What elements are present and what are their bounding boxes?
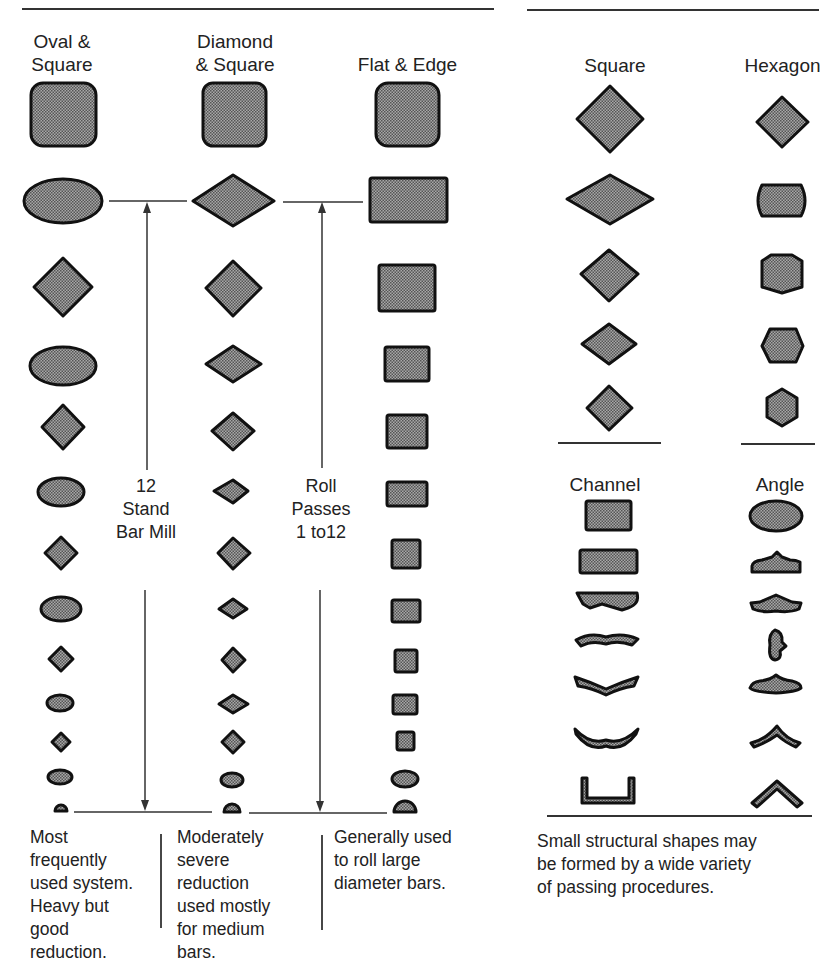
- hexagon-shape: [762, 329, 803, 362]
- oval-shape: [221, 773, 243, 787]
- description-line: good: [30, 918, 160, 941]
- description-line: severe: [177, 849, 317, 872]
- description-line: Heavy but: [30, 895, 160, 918]
- description-line: Generally used: [334, 826, 494, 849]
- oval-shape: [30, 347, 96, 385]
- oval-shape: [47, 695, 73, 711]
- rect-shape: [586, 501, 631, 530]
- oval-shape: [392, 771, 418, 787]
- angle-pass-shape: [751, 726, 800, 747]
- arrow-up-icon: [318, 202, 326, 213]
- diamond-shape: [219, 695, 248, 713]
- description-line: used system.: [30, 872, 160, 895]
- round-shape: [394, 801, 416, 812]
- oval-shape: [750, 501, 802, 531]
- channel-finish-shape: [582, 778, 634, 803]
- diamond-shape: [222, 648, 245, 672]
- oval-shape: [38, 478, 84, 506]
- description-line: for medium: [177, 918, 317, 941]
- flat-edge-sequence: [370, 83, 447, 812]
- diamond-shape: [193, 175, 274, 226]
- diamond-shape: [577, 86, 643, 152]
- diamond-shape: [34, 258, 92, 316]
- channel-pass-shape: [576, 635, 638, 646]
- description-line: be formed by a wide variety: [537, 853, 827, 876]
- angle-finish-shape: [752, 781, 802, 807]
- description-line: bars.: [177, 941, 317, 960]
- description-diamond-square: Moderately severe reduction used mostly …: [177, 826, 317, 960]
- rect-shape: [393, 695, 417, 714]
- oval-shape: [41, 597, 81, 621]
- rect-shape: [580, 550, 637, 573]
- description-line: of passing procedures.: [537, 876, 827, 899]
- oval-square-sequence: [24, 83, 102, 811]
- rect-shape: [397, 732, 414, 750]
- description-line: Moderately: [177, 826, 317, 849]
- flat-shape: [370, 178, 447, 222]
- arrow-down-icon: [141, 800, 149, 811]
- arrow-down-icon: [316, 801, 324, 812]
- rect-shape: [395, 650, 417, 672]
- oval-shape: [48, 770, 72, 784]
- hexagon-sequence: [757, 97, 808, 426]
- square-shape: [203, 83, 266, 146]
- angle-pass-shape: [752, 552, 800, 572]
- diamond-shape: [45, 537, 77, 569]
- diamond-shape: [581, 250, 638, 301]
- channel-pass-shape: [575, 677, 638, 695]
- hexagon-rounded-shape: [758, 185, 805, 216]
- diamond-shape: [206, 346, 261, 382]
- hexagon-shape: [762, 255, 802, 293]
- round-shape: [224, 804, 240, 812]
- rect-shape: [392, 540, 420, 568]
- angle-sequence: [750, 501, 802, 807]
- square-shape: [31, 83, 96, 146]
- rect-shape: [387, 415, 427, 448]
- diamond-shape: [218, 538, 250, 569]
- description-line: diameter bars.: [334, 872, 494, 895]
- square-sequence: [567, 86, 653, 430]
- channel-pass-shape: [577, 593, 638, 610]
- rect-shape: [392, 600, 420, 622]
- diamond-shape: [214, 480, 248, 503]
- square-shape: [376, 83, 439, 146]
- rect-shape: [387, 482, 427, 506]
- diamond-shape: [587, 386, 632, 430]
- diamond-shape: [52, 733, 70, 751]
- description-line: Most: [30, 826, 160, 849]
- channel-sequence: [575, 501, 638, 803]
- angle-pass-shape: [750, 675, 801, 693]
- rect-shape: [379, 265, 435, 311]
- diamond-shape: [219, 599, 247, 618]
- channel-pass-shape: [575, 729, 638, 748]
- description-oval-square: Most frequently used system. Heavy but g…: [30, 826, 160, 960]
- description-line: reduction.: [30, 941, 160, 960]
- diamond-shape: [42, 405, 84, 449]
- description-structural: Small structural shapes may be formed by…: [537, 830, 827, 899]
- diamond-shape: [567, 175, 653, 224]
- roll-pass-diagram: [0, 0, 835, 960]
- round-shape: [55, 805, 67, 811]
- description-flat-edge: Generally used to roll large diameter ba…: [334, 826, 494, 895]
- diamond-shape: [582, 324, 636, 364]
- description-line: used mostly: [177, 895, 317, 918]
- rect-shape: [385, 347, 429, 381]
- angle-pass-shape: [770, 630, 786, 660]
- diamond-shape: [49, 647, 73, 671]
- diamond-shape: [222, 731, 244, 753]
- oval-shape: [24, 179, 102, 223]
- description-line: to roll large: [334, 849, 494, 872]
- diamond-shape: [212, 413, 254, 450]
- hexagon-shape: [767, 389, 797, 426]
- arrow-up-icon: [143, 202, 151, 213]
- diamond-shape: [206, 261, 261, 316]
- description-line: reduction: [177, 872, 317, 895]
- angle-pass-shape: [751, 595, 801, 612]
- diamond-shape: [757, 97, 808, 147]
- diamond-square-sequence: [193, 83, 274, 812]
- description-line: frequently: [30, 849, 160, 872]
- description-line: Small structural shapes may: [537, 830, 827, 853]
